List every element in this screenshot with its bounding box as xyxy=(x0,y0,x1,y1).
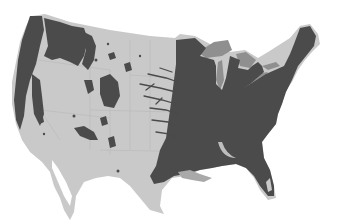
forest-patch xyxy=(139,55,141,57)
forest-patch xyxy=(73,115,76,118)
forest-patch xyxy=(43,133,45,135)
forest-patch xyxy=(117,170,120,173)
forest-patch xyxy=(107,43,109,45)
us-forest-map xyxy=(0,0,343,222)
forest-patch xyxy=(95,59,98,62)
